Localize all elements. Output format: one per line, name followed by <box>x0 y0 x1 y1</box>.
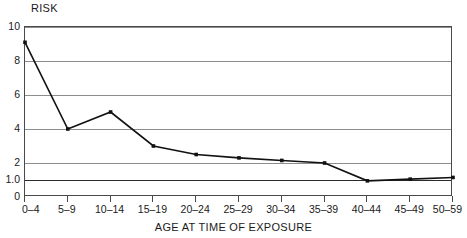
x-tick-label: 40–44 <box>352 203 381 215</box>
y-tick-label: 4 <box>14 122 20 134</box>
x-tick-label: 25–29 <box>223 203 252 215</box>
y-axis-tick-labels: 01.0246810 <box>0 26 22 196</box>
y-tick-label: 8 <box>14 54 20 66</box>
x-tick-label: 20–24 <box>181 203 210 215</box>
x-axis-title: AGE AT TIME OF EXPOSURE <box>0 221 467 233</box>
y-tick-label: 2 <box>14 156 20 168</box>
x-tick-mark <box>152 196 153 202</box>
data-point-marker <box>366 179 370 183</box>
x-tick-mark <box>24 196 25 202</box>
y-tick-label: 10 <box>8 20 20 32</box>
y-tick-label: 0 <box>14 190 20 202</box>
risk-series <box>25 27 453 197</box>
x-tick-mark <box>452 196 453 202</box>
x-tick-label: 10–14 <box>95 203 124 215</box>
x-tick-mark <box>195 196 196 202</box>
x-tick-label: 0–4 <box>22 203 40 215</box>
data-point-marker <box>237 156 241 160</box>
x-tick-label: 15–19 <box>138 203 167 215</box>
y-tick-label: 1.0 <box>5 173 20 185</box>
data-point-marker <box>323 161 327 165</box>
data-point-marker <box>280 159 284 163</box>
y-axis-title: RISK <box>31 2 58 14</box>
plot-inner <box>25 27 451 195</box>
x-tick-mark <box>238 196 239 202</box>
data-point-marker <box>408 177 412 181</box>
y-tick-label: 6 <box>14 88 20 100</box>
data-point-marker <box>23 41 27 45</box>
x-tick-label: 30–34 <box>266 203 295 215</box>
risk-line <box>25 42 453 181</box>
x-tick-label: 50–59 <box>433 203 462 215</box>
x-tick-mark <box>281 196 282 202</box>
risk-markers <box>23 41 455 183</box>
x-tick-mark <box>409 196 410 202</box>
data-point-marker <box>152 144 156 148</box>
x-tick-mark <box>110 196 111 202</box>
data-point-marker <box>194 153 198 157</box>
data-point-marker <box>451 176 455 180</box>
x-tick-label: 45–49 <box>395 203 424 215</box>
x-tick-label: 35–39 <box>309 203 338 215</box>
risk-vs-age-chart: RISK 01.0246810 0–45–910–1415–1920–2425–… <box>0 0 467 238</box>
x-tick-mark <box>324 196 325 202</box>
plot-area <box>24 26 452 196</box>
x-tick-mark <box>366 196 367 202</box>
data-point-marker <box>66 127 70 131</box>
x-axis-tick-labels: 0–45–910–1415–1920–2425–2930–3435–3940–4… <box>0 203 467 219</box>
data-point-marker <box>109 110 113 114</box>
x-tick-mark <box>67 196 68 202</box>
x-tick-label: 5–9 <box>58 203 76 215</box>
